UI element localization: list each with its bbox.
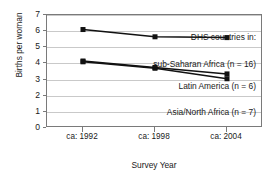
x-axis-title: Survey Year — [46, 160, 262, 170]
y-axis-tick-label: 6 — [8, 25, 40, 35]
y-axis-tick-label: 4 — [8, 57, 40, 67]
series-marker — [153, 34, 158, 39]
legend-header: DHS countries in: — [191, 32, 256, 42]
y-axis-tick-label: 7 — [8, 9, 40, 19]
y-axis-tick-label: 0 — [8, 122, 40, 132]
x-axis-tick-label: ca: 1992 — [47, 132, 117, 141]
line-chart: Births per woman Survey Year 01234567 ca… — [0, 0, 275, 182]
x-axis-tick-mark — [154, 127, 155, 132]
x-axis-tick-label: ca: 1998 — [119, 132, 189, 141]
y-axis-tick-label: 3 — [8, 74, 40, 84]
x-axis-tick-label: ca: 2004 — [191, 132, 261, 141]
series-label-asia-north-africa: Asia/North Africa (n = 7) — [167, 107, 256, 117]
series-marker — [81, 59, 86, 64]
y-axis-tick-label: 5 — [8, 41, 40, 51]
series-label-sub-saharan-africa: sub-Saharan Africa (n = 16) — [153, 59, 256, 69]
series-marker — [225, 71, 230, 76]
plot-area: DHS countries in: sub-Saharan Africa (n … — [46, 14, 262, 127]
series-label-latin-america: Latin America (n = 6) — [178, 81, 256, 91]
x-axis-tick-mark — [226, 127, 227, 132]
x-axis-tick-mark — [82, 127, 83, 132]
series-marker — [81, 27, 86, 32]
y-axis-tick-label: 1 — [8, 106, 40, 116]
y-axis-tick-label: 2 — [8, 90, 40, 100]
y-axis-tick-mark — [43, 127, 46, 128]
